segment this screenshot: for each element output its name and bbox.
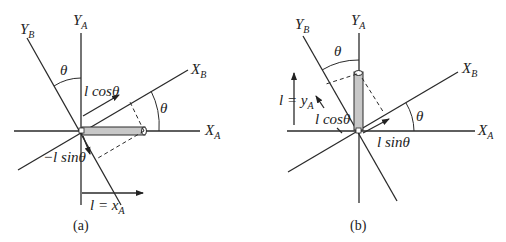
length-label-a: l = xA: [90, 197, 125, 216]
caption-b: (b): [350, 218, 367, 234]
cos-label-b: l cosθ: [315, 111, 351, 127]
panel-a: YA YB XB XA θ θ l cosθ −l sinθ l = xA (a…: [14, 12, 221, 234]
yb-label-a: YB: [20, 21, 34, 40]
xa-label-a: XA: [204, 122, 221, 141]
theta-label-right-a: θ: [160, 100, 168, 116]
cos-label-a: l cosθ: [84, 83, 120, 99]
caption-a: (a): [73, 218, 89, 234]
ya-label-b: YA: [351, 12, 366, 31]
projection-yb-b: [326, 74, 357, 84]
panel-b: YA YB XB XA θ θ l = yA l cosθ l sinθ (b): [279, 12, 494, 234]
xb-label-a: XB: [190, 61, 206, 80]
origin-joint-b: [356, 128, 361, 133]
length-label-b: l = yA: [279, 92, 314, 111]
cos-arrow-b: [316, 96, 324, 108]
diagram-canvas: YA YB XB XA θ θ l cosθ −l sinθ l = xA (a…: [0, 0, 506, 242]
link-bar-a: [82, 127, 145, 135]
xa-label-b: XA: [477, 122, 494, 141]
theta-arc-top-b: [322, 60, 359, 70]
xb-axis-b: [288, 72, 458, 172]
theta-label-top-b: θ: [334, 43, 342, 59]
theta-arc-right-b: [406, 103, 414, 131]
projection-xb-b: [362, 78, 384, 113]
sin-label-b: l sinθ: [377, 134, 410, 150]
theta-arc-right-a: [151, 91, 159, 131]
ya-label-a: YA: [73, 12, 88, 31]
link-bar-b: [354, 72, 363, 130]
sin-label-a: −l sinθ: [43, 149, 87, 165]
xb-label-b: XB: [461, 60, 477, 79]
theta-label-right-b: θ: [416, 108, 424, 124]
theta-label-top-a: θ: [60, 62, 68, 78]
yb-axis-a: [27, 38, 121, 205]
rotation-diagram: YA YB XB XA θ θ l cosθ −l sinθ l = xA (a…: [0, 0, 506, 242]
origin-joint-a: [79, 128, 84, 133]
yb-label-b: YB: [295, 16, 309, 35]
theta-arc-top-a: [54, 78, 81, 86]
